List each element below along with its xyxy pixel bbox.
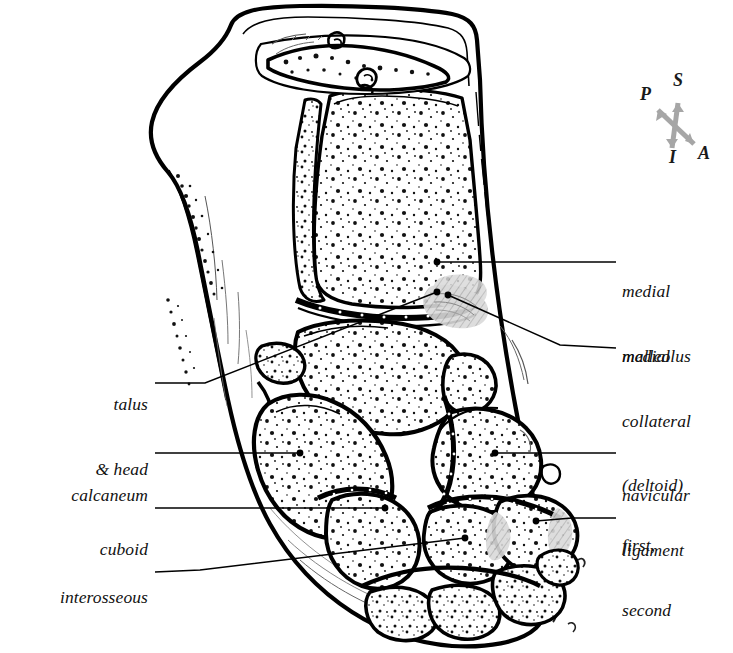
label-line: talus (0, 394, 148, 416)
orientation-compass-arrows (656, 103, 694, 148)
compass-label-i: I (669, 147, 676, 168)
label-cuneiforms: first, second & third cuneiforms (622, 492, 701, 653)
label-line: second (622, 600, 701, 622)
compass-label-a: A (698, 143, 710, 164)
label-line: interosseous (0, 587, 148, 609)
label-line: medial (622, 281, 691, 303)
label-line: medial (622, 346, 691, 368)
compass-label-s: S (673, 70, 683, 91)
label-line: collateral (622, 411, 691, 433)
label-line: first, (622, 535, 701, 557)
label-interosseous-ligaments: interosseous ligaments (0, 544, 148, 653)
anatomical-figure: S P I A medial malleolus medial collater… (0, 0, 733, 653)
compass-label-p: P (640, 84, 651, 105)
